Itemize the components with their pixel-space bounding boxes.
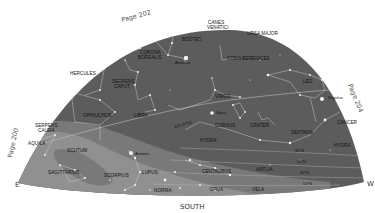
label-scutum: SCUTUM	[67, 148, 87, 153]
compass-west: W	[367, 180, 374, 188]
label-hydra-center: HYDRA	[200, 138, 217, 143]
label-regulus: Regulus	[328, 95, 343, 100]
label-hydra-west: HYDRA	[334, 143, 351, 148]
compass-south: SOUTH	[180, 203, 205, 211]
label-aquila: AQUILA	[28, 141, 46, 146]
page-ref-200[interactable]: Page 200	[6, 127, 20, 158]
label-cancer: CANCER	[337, 120, 358, 125]
page-ref-202[interactable]: Page 202	[120, 8, 151, 24]
label-serpens-cauda: SERPENSCAUDA	[35, 123, 58, 133]
label-sagittarius: SAGITTARIUS	[48, 170, 79, 175]
label-scorpius: SCORPIUS	[104, 173, 129, 178]
page-ref-204[interactable]: Page 204	[346, 83, 365, 114]
label-coma-berenices: COMA BERENICES	[227, 56, 270, 61]
latitude-label: 40°N	[300, 170, 309, 175]
label-vela: VELA	[252, 187, 265, 192]
label-canes-venatici: CANESVENATICI	[207, 20, 229, 30]
label-norma: NORMA	[154, 188, 172, 193]
compass-east: E	[15, 181, 19, 189]
label-hercules: HERCULES	[70, 71, 96, 76]
latitude-label: 30°N	[295, 148, 304, 153]
label-ursa-major: URSA MAJOR	[247, 31, 278, 36]
label-corona-borealis: CORONABOREALIS	[138, 50, 162, 60]
latitude-label: 50°N	[303, 181, 312, 186]
label-bootes: BOÖTES	[182, 36, 202, 42]
label-crux: CRUX	[210, 187, 223, 192]
label-virgo: VIRGO	[215, 94, 231, 99]
label-antlia: ANTLIA	[256, 167, 274, 172]
label-arcturus: Arcturus	[175, 60, 190, 65]
label-lupus: LUPUS	[142, 170, 158, 175]
star-chart: Page 202 Page 204 Page 200 E W SOUTH CAN…	[0, 0, 375, 213]
latitude-label: 10°N	[297, 159, 306, 164]
label-libra: LIBRA	[134, 113, 149, 118]
label-sextans: SEXTANS	[291, 130, 313, 135]
label-ophiuchus: OPHIUCHUS	[83, 113, 111, 118]
label-corvus: CORVUS	[215, 123, 235, 128]
label-spica: Spica	[216, 110, 227, 115]
label-leo: LEO	[303, 79, 313, 84]
label-antares: Antares	[135, 151, 149, 156]
label-centaurus: CENTAURUS	[202, 169, 231, 174]
label-crater: CRATER	[250, 123, 270, 128]
